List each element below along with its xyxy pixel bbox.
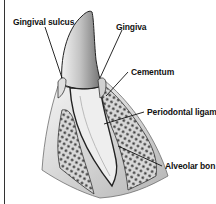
leader-gingival-sulcus: [45, 27, 62, 78]
label-gingival-sulcus: Gingival sulcus: [13, 18, 74, 27]
label-periodontal-ligament: Periodontal ligame: [147, 108, 216, 117]
label-gingiva: Gingiva: [116, 23, 146, 32]
label-cementum: Cementum: [131, 68, 174, 77]
leader-gingiva: [100, 30, 122, 78]
label-alveolar-bone: Alveolar bon: [165, 162, 215, 171]
tooth-illustration: [0, 0, 216, 204]
tooth-anatomy-diagram: Gingival sulcus Gingiva Cementum Periodo…: [0, 0, 216, 204]
